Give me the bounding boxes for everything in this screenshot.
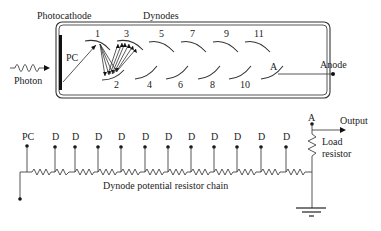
svg-text:3: 3 — [124, 28, 129, 39]
circuit-anode-label: A — [308, 112, 316, 123]
resistor-chain-circuit: PC D D D D D D D D D D D Dynode potentia… — [18, 112, 368, 216]
svg-text:D: D — [52, 131, 59, 142]
dynode-tap: D — [142, 131, 149, 172]
dynode-5 — [149, 41, 174, 52]
output-label: Output — [340, 115, 368, 126]
svg-text:7: 7 — [190, 28, 195, 39]
svg-text:11: 11 — [254, 28, 264, 39]
svg-text:5: 5 — [159, 28, 164, 39]
svg-text:D: D — [188, 131, 195, 142]
svg-text:8: 8 — [210, 79, 215, 90]
svg-text:D: D — [258, 131, 265, 142]
load-resistor-label-1: Load — [322, 136, 343, 147]
resistor-chain — [27, 169, 312, 175]
svg-text:D: D — [118, 131, 125, 142]
svg-text:D: D — [283, 131, 290, 142]
dynode-tap: D — [234, 131, 241, 172]
svg-text:6: 6 — [178, 79, 183, 90]
dynode-tap: D — [72, 131, 79, 172]
pc-label: PC — [66, 52, 79, 63]
svg-text:9: 9 — [224, 28, 229, 39]
dynode-1 — [85, 40, 110, 50]
load-resistor — [308, 130, 316, 172]
dynode-7 — [181, 41, 206, 52]
anode-plate-label: A — [270, 61, 278, 72]
dynode-6 — [166, 66, 188, 79]
dynode-tap: D — [211, 131, 218, 172]
anode-terminal — [331, 72, 335, 76]
dynode-tap: D — [258, 131, 265, 172]
svg-text:1: 1 — [95, 28, 100, 39]
svg-text:D: D — [72, 131, 79, 142]
dynode-9 — [213, 41, 238, 52]
circuit-pc-label: PC — [22, 131, 35, 142]
dynode-numbers: 1 2 3 4 5 6 7 8 9 10 11 — [95, 28, 264, 90]
load-resistor-label-2: resistor — [322, 148, 352, 159]
svg-text:D: D — [142, 131, 149, 142]
photocathode-label: Photocathode — [37, 10, 92, 21]
svg-text:4: 4 — [147, 79, 152, 90]
anode-label: Anode — [320, 59, 347, 70]
photomultiplier-diagram: Photocathode Dynodes Photon PC — [0, 0, 381, 231]
svg-text:D: D — [234, 131, 241, 142]
dynode-taps: D D D D D D D D D D D — [52, 131, 290, 172]
svg-text:D: D — [211, 131, 218, 142]
svg-text:2: 2 — [114, 79, 119, 90]
photon-wave-icon — [10, 65, 50, 72]
svg-text:D: D — [95, 131, 102, 142]
svg-text:10: 10 — [240, 79, 250, 90]
electron-path-arrow — [63, 45, 96, 82]
dynode-tap: D — [165, 131, 172, 172]
dynode-tap: D — [188, 131, 195, 172]
dynode-tap: D — [283, 131, 290, 172]
dynode-11 — [245, 41, 270, 52]
photon-label: Photon — [14, 75, 42, 86]
dynode-tap: D — [95, 131, 102, 172]
svg-text:D: D — [165, 131, 172, 142]
photocathode-plate — [59, 35, 62, 90]
dynode-10 — [229, 66, 251, 79]
dynode-tap: D — [52, 131, 59, 172]
output-arrow-icon — [340, 127, 346, 133]
chain-label: Dynode potential resistor chain — [103, 180, 228, 191]
ground-icon — [296, 208, 326, 216]
dynode-4 — [135, 66, 157, 79]
dynode-8 — [198, 66, 220, 79]
hv-input-terminal — [18, 197, 22, 201]
dynode-tap: D — [118, 131, 125, 172]
dynodes-label: Dynodes — [143, 10, 179, 21]
